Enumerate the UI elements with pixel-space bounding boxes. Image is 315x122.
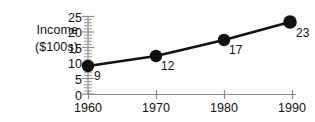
data-label-1980: 17 <box>229 44 242 56</box>
data-label-1970: 12 <box>161 60 174 72</box>
data-point-1960 <box>82 60 94 72</box>
data-point-1990 <box>283 15 297 29</box>
data-label-1990: 23 <box>296 27 309 39</box>
x-axis <box>88 90 296 99</box>
plot-area <box>0 0 315 122</box>
data-label-1960: 9 <box>94 70 101 82</box>
y-axis <box>82 16 94 95</box>
data-line <box>88 22 290 66</box>
income-line-chart: Income ($100s) 25 20 15 10 5 0 1960 1970… <box>0 0 315 122</box>
